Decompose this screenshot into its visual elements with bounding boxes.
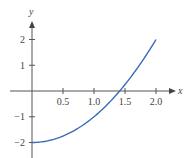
y-tick-label: −2 [14, 137, 25, 148]
y-axis-arrow-icon [29, 21, 35, 28]
x-axis-arrow-icon [169, 88, 176, 94]
y-tick-label: 2 [20, 34, 25, 45]
x-tick-label: 2.0 [150, 96, 163, 107]
x-tick-label: 0.5 [57, 96, 70, 107]
y-tick-label: −1 [14, 111, 25, 122]
function-plot: 0.51.01.52.021−1−2 x y [0, 0, 186, 158]
y-axis-label: y [28, 6, 34, 17]
y-tick-label: 1 [20, 60, 25, 71]
x-tick-label: 1.0 [88, 96, 101, 107]
x-tick-label: 1.5 [119, 96, 132, 107]
x-axis-label: x [177, 85, 183, 96]
